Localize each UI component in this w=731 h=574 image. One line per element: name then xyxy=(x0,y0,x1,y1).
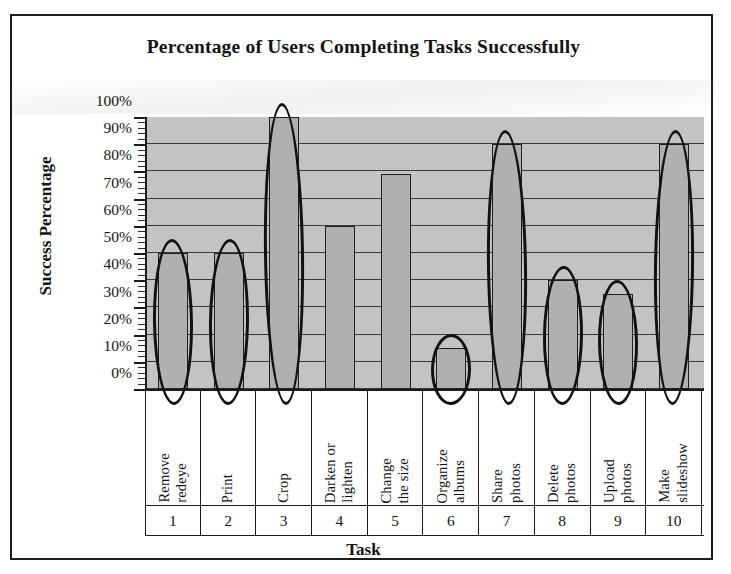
y-minor-tick xyxy=(138,324,145,325)
x-axis-title: Task xyxy=(12,540,715,560)
bar-task-2 xyxy=(214,253,244,389)
y-minor-tick xyxy=(138,356,145,357)
y-minor-tick xyxy=(138,242,145,243)
category-cell-5: Changethe size xyxy=(368,391,424,506)
category-label-line: photos xyxy=(563,463,578,503)
y-minor-tick xyxy=(138,351,145,352)
category-label-line: Darken or xyxy=(323,443,338,503)
category-label-band: RemoveredeyePrintCropDarken orlightenCha… xyxy=(145,391,704,506)
y-minor-tick xyxy=(138,150,145,151)
y-minor-tick xyxy=(138,297,145,298)
category-label-line: slideshow xyxy=(675,443,690,503)
y-major-tick xyxy=(134,280,145,282)
y-major-tick xyxy=(134,335,145,337)
y-tick-label-30: 30% xyxy=(60,284,132,300)
y-minor-tick xyxy=(138,215,145,216)
category-cell-3: Crop xyxy=(256,391,312,506)
category-number-6: 6 xyxy=(424,506,480,536)
bar-task-9 xyxy=(603,294,633,389)
category-label-line: Delete xyxy=(546,464,561,503)
y-minor-tick xyxy=(138,378,145,379)
gridline-80 xyxy=(147,170,704,171)
category-cell-8: Deletephotos xyxy=(535,391,591,506)
category-label-line: redeye xyxy=(174,463,189,503)
category-cell-10: Makeslideshow xyxy=(646,391,702,506)
y-axis-title: Success Percentage xyxy=(36,116,56,336)
y-minor-tick xyxy=(138,345,145,346)
y-major-tick xyxy=(134,307,145,309)
y-tick-label-10: 10% xyxy=(60,338,132,354)
category-cell-7: Sharephotos xyxy=(479,391,535,506)
category-number-band: 12345678910 xyxy=(145,506,704,536)
y-minor-tick xyxy=(138,258,145,259)
y-minor-tick xyxy=(138,264,145,265)
bar-task-6 xyxy=(436,348,466,389)
category-label-line: photos xyxy=(508,463,523,503)
category-cell-2: Print xyxy=(201,391,257,506)
category-label-1: Removeredeye xyxy=(146,391,200,506)
y-tick-label-40: 40% xyxy=(60,256,132,272)
gridline-90 xyxy=(147,143,704,144)
bar-task-7 xyxy=(492,144,522,389)
bar-task-1 xyxy=(158,253,188,389)
category-label-2: Print xyxy=(201,391,256,506)
y-minor-tick xyxy=(138,248,145,249)
category-number-9: 9 xyxy=(591,506,647,536)
y-major-tick xyxy=(134,117,145,119)
y-tick-label-100: 100% xyxy=(60,93,132,109)
y-minor-tick xyxy=(138,318,145,319)
category-number-4: 4 xyxy=(312,506,368,536)
y-minor-tick xyxy=(138,275,145,276)
y-minor-tick xyxy=(138,122,145,123)
y-major-tick xyxy=(134,226,145,228)
y-minor-tick xyxy=(138,166,145,167)
category-label-line: albums xyxy=(452,460,467,503)
bar-task-5 xyxy=(381,174,411,389)
category-cell-1: Removeredeye xyxy=(145,391,201,506)
category-label-8: Deletephotos xyxy=(535,391,590,506)
y-tick-label-20: 20% xyxy=(60,311,132,327)
category-cell-9: Uploadphotos xyxy=(591,391,647,506)
y-minor-tick xyxy=(138,155,145,156)
bar-task-10 xyxy=(659,144,689,389)
category-label-line: Print xyxy=(220,474,235,503)
y-minor-tick xyxy=(138,313,145,314)
category-number-3: 3 xyxy=(256,506,312,536)
category-number-2: 2 xyxy=(201,506,257,536)
category-label-line: Share xyxy=(490,469,505,503)
y-minor-tick xyxy=(138,139,145,140)
category-label-line: Change xyxy=(379,458,394,504)
category-label-line: Organize xyxy=(435,449,450,503)
category-number-10: 10 xyxy=(646,506,702,536)
y-minor-tick xyxy=(138,133,145,134)
category-number-8: 8 xyxy=(535,506,591,536)
y-minor-tick xyxy=(138,161,145,162)
category-label-9: Uploadphotos xyxy=(591,391,646,506)
category-number-1: 1 xyxy=(145,506,201,536)
gridline-70 xyxy=(147,198,704,199)
category-label-3: Crop xyxy=(256,391,311,506)
bar-task-4 xyxy=(325,226,355,389)
y-major-tick xyxy=(134,389,145,391)
y-minor-tick xyxy=(138,384,145,385)
y-major-tick xyxy=(134,171,145,173)
category-label-line: the size xyxy=(396,458,411,503)
y-major-tick xyxy=(134,199,145,201)
category-label-10: Makeslideshow xyxy=(646,391,701,506)
y-minor-tick xyxy=(138,220,145,221)
category-cell-4: Darken orlighten xyxy=(312,391,368,506)
bar-task-8 xyxy=(548,280,578,389)
y-minor-tick xyxy=(138,237,145,238)
y-tick-label-60: 60% xyxy=(60,202,132,218)
bar-task-3 xyxy=(269,117,299,389)
y-minor-tick xyxy=(138,193,145,194)
y-minor-tick xyxy=(138,373,145,374)
y-tick-label-80: 80% xyxy=(60,147,132,163)
y-minor-tick xyxy=(138,209,145,210)
y-minor-tick xyxy=(138,269,145,270)
y-minor-tick xyxy=(138,340,145,341)
y-minor-tick xyxy=(138,128,145,129)
y-axis-tick-rail xyxy=(138,103,145,389)
category-label-5: Changethe size xyxy=(368,391,423,506)
chart-title: Percentage of Users Completing Tasks Suc… xyxy=(12,36,715,58)
